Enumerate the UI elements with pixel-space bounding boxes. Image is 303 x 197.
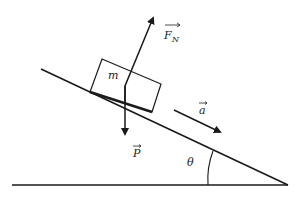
angle-label: θ — [187, 156, 194, 169]
svg-text:P: P — [132, 147, 141, 160]
inclined-plane-diagram: m F N P a θ — [0, 0, 303, 197]
angle-arc — [208, 151, 213, 185]
acceleration-label: a — [199, 102, 207, 118]
block-label: m — [108, 69, 118, 82]
weight-label: P — [132, 145, 141, 161]
acceleration-arrow — [174, 110, 220, 132]
normal-force-arrow — [125, 18, 153, 103]
incline-line — [41, 69, 288, 185]
normal-force-label: F N — [163, 23, 180, 44]
block-base — [90, 92, 152, 112]
svg-text:N: N — [171, 35, 180, 44]
svg-text:a: a — [199, 104, 206, 117]
svg-text:F: F — [163, 29, 172, 42]
